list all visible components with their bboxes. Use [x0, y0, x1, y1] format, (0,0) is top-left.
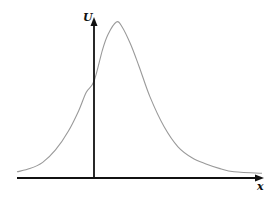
- x-axis-label: x: [257, 180, 264, 193]
- bell-curve: [17, 22, 262, 174]
- y-axis-label: U: [83, 11, 93, 24]
- plot-canvas: [0, 0, 274, 199]
